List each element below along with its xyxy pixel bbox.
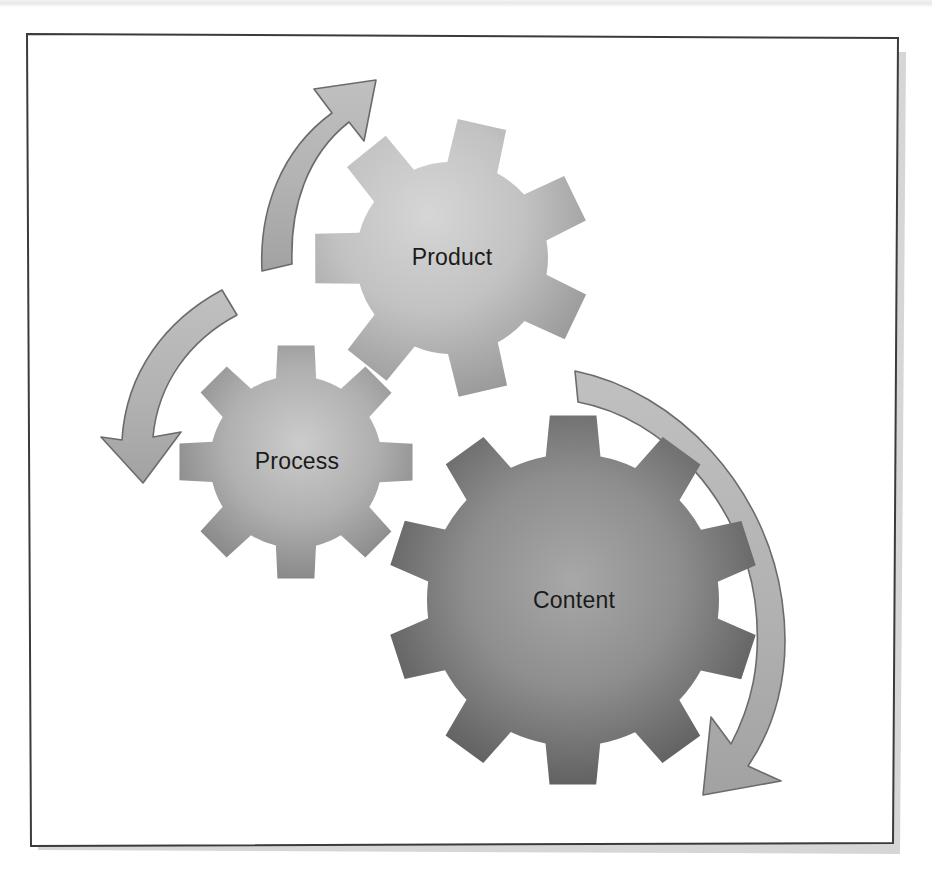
gear-process-label: Process [255, 448, 339, 474]
diagram-canvas: Product Process Content [0, 0, 932, 869]
gear-product-label: Product [412, 244, 493, 270]
gear-content-label: Content [533, 587, 615, 613]
gear-process: Process [179, 345, 412, 578]
gear-cycle-diagram: Product Process Content [0, 0, 932, 869]
